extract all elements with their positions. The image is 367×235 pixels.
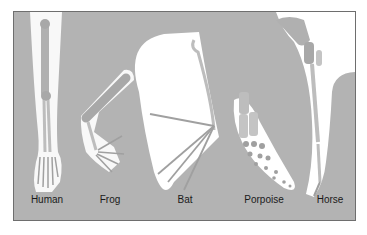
label-horse: Horse [317, 194, 344, 205]
frog-limb-illustration [81, 70, 134, 172]
porpoise-flipper-illustration [234, 92, 295, 190]
label-frog: Frog [100, 194, 121, 205]
horse-leg-illustration [276, 12, 356, 197]
label-human: Human [31, 194, 63, 205]
label-bat: Bat [177, 194, 192, 205]
label-porpoise: Porpoise [244, 194, 283, 205]
bat-wing-illustration [135, 32, 219, 190]
human-arm-illustration [30, 12, 62, 192]
limb-diagram-frame [13, 11, 356, 221]
limb-illustration [14, 12, 356, 221]
